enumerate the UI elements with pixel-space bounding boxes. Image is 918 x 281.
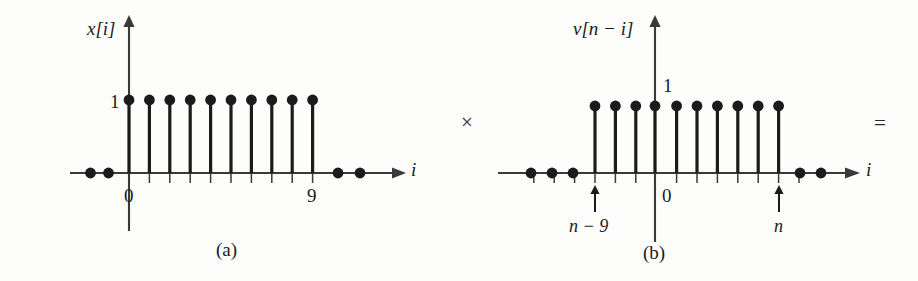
panel-b-caption: (b) xyxy=(643,243,665,262)
panel-a-caption: (a) xyxy=(216,240,237,259)
panel-a-stems xyxy=(129,101,313,173)
n-arrow-head xyxy=(774,185,783,194)
panel-a-y-axis-label: x[i] xyxy=(87,19,116,38)
n-minus-9-arrow-head xyxy=(590,185,599,194)
figure-canvas: x[i] i 1 0 9 (a) × v[n − i] i 1 0 n − 9 … xyxy=(0,0,918,281)
multiply-operator: × xyxy=(461,112,473,133)
equals-operator: = xyxy=(874,113,886,134)
panel-b-x-axis-label: i xyxy=(866,160,871,179)
panel-b-annotation-arrows xyxy=(590,185,783,212)
panel-b-amplitude-label: 1 xyxy=(663,76,673,95)
panel-b-marker-label-n: n xyxy=(774,217,783,235)
panel-a-stem-dots xyxy=(124,95,318,106)
panel-b-origin-label: 0 xyxy=(662,186,672,205)
panel-a-graphics xyxy=(70,15,406,231)
panel-a-y-axis-arrowhead xyxy=(123,15,134,27)
panel-a-ticks xyxy=(129,173,313,183)
panel-b-x-axis-arrowhead xyxy=(845,168,860,179)
panel-a-x-axis-label: i xyxy=(411,160,416,179)
panel-a-amplitude-label: 1 xyxy=(110,92,120,111)
panel-b-stem-dots xyxy=(590,101,784,112)
stem-plot-group xyxy=(0,0,918,281)
panel-b-stems xyxy=(595,107,779,173)
panel-b-y-axis-arrowhead xyxy=(649,15,660,27)
panel-a-x-axis-arrowhead xyxy=(392,168,406,179)
panel-b-y-axis-label: v[n − i] xyxy=(573,19,633,38)
panel-b-graphics xyxy=(498,15,860,242)
panel-a-origin-label: 0 xyxy=(124,186,134,205)
panel-a-end-label: 9 xyxy=(307,186,317,205)
panel-b-marker-label-n-minus-9: n − 9 xyxy=(569,217,608,235)
